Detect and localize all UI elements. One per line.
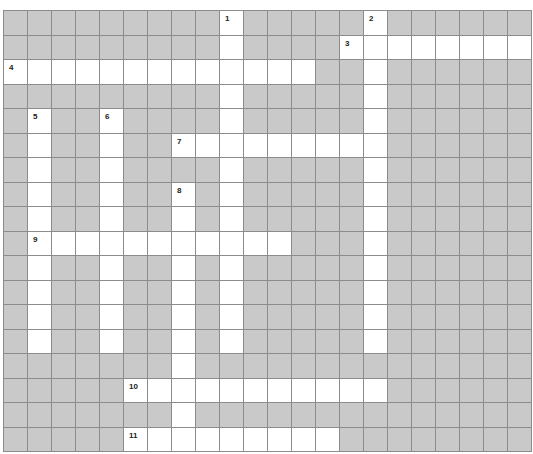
grid-cell-open[interactable] — [412, 36, 436, 61]
grid-cell-open[interactable] — [340, 379, 364, 404]
grid-cell-open[interactable]: 5 — [28, 109, 52, 134]
grid-cell-open[interactable] — [460, 36, 484, 61]
grid-cell-open[interactable]: 3 — [340, 36, 364, 61]
grid-cell-open[interactable] — [28, 305, 52, 330]
grid-cell-open[interactable] — [316, 134, 340, 159]
grid-cell-open[interactable] — [292, 60, 316, 85]
grid-cell-open[interactable] — [148, 60, 172, 85]
grid-cell-open[interactable] — [100, 281, 124, 306]
grid-cell-open[interactable] — [244, 428, 268, 453]
grid-cell-open[interactable] — [364, 305, 388, 330]
grid-cell-open[interactable] — [220, 281, 244, 306]
grid-cell-open[interactable] — [340, 134, 364, 159]
grid-cell-open[interactable] — [220, 330, 244, 355]
grid-cell-open[interactable] — [100, 134, 124, 159]
grid-cell-open[interactable]: 8 — [172, 183, 196, 208]
grid-cell-open[interactable] — [268, 60, 292, 85]
grid-cell-open[interactable] — [364, 109, 388, 134]
grid-cell-open[interactable] — [220, 428, 244, 453]
grid-cell-open[interactable] — [124, 232, 148, 257]
grid-cell-open[interactable] — [292, 134, 316, 159]
grid-cell-open[interactable] — [220, 158, 244, 183]
grid-cell-open[interactable] — [196, 60, 220, 85]
grid-cell-open[interactable] — [100, 330, 124, 355]
grid-cell-open[interactable] — [268, 379, 292, 404]
grid-cell-open[interactable] — [220, 379, 244, 404]
grid-cell-open[interactable]: 7 — [172, 134, 196, 159]
grid-cell-open[interactable] — [52, 60, 76, 85]
grid-cell-open[interactable] — [220, 256, 244, 281]
grid-cell-open[interactable]: 11 — [124, 428, 148, 453]
grid-cell-open[interactable] — [28, 256, 52, 281]
grid-cell-open[interactable] — [172, 330, 196, 355]
grid-cell-open[interactable] — [76, 232, 100, 257]
grid-cell-open[interactable] — [100, 232, 124, 257]
grid-cell-open[interactable] — [100, 183, 124, 208]
grid-cell-open[interactable] — [244, 60, 268, 85]
grid-cell-open[interactable] — [172, 354, 196, 379]
grid-cell-open[interactable] — [172, 428, 196, 453]
grid-cell-open[interactable]: 10 — [124, 379, 148, 404]
grid-cell-open[interactable] — [28, 158, 52, 183]
grid-cell-open[interactable] — [364, 36, 388, 61]
grid-cell-open[interactable] — [364, 256, 388, 281]
grid-cell-open[interactable] — [268, 232, 292, 257]
grid-cell-open[interactable] — [364, 330, 388, 355]
grid-cell-open[interactable] — [436, 36, 460, 61]
grid-cell-open[interactable] — [172, 256, 196, 281]
grid-cell-open[interactable] — [292, 379, 316, 404]
grid-cell-open[interactable] — [76, 60, 100, 85]
grid-cell-open[interactable] — [220, 36, 244, 61]
grid-cell-open[interactable] — [100, 207, 124, 232]
grid-cell-open[interactable] — [220, 183, 244, 208]
grid-cell-open[interactable] — [148, 232, 172, 257]
grid-cell-open[interactable] — [508, 36, 532, 61]
grid-cell-open[interactable] — [364, 379, 388, 404]
grid-cell-open[interactable] — [220, 232, 244, 257]
grid-cell-open[interactable]: 1 — [220, 11, 244, 36]
grid-cell-open[interactable] — [172, 232, 196, 257]
grid-cell-open[interactable] — [364, 134, 388, 159]
grid-cell-open[interactable] — [28, 183, 52, 208]
grid-cell-open[interactable] — [172, 305, 196, 330]
grid-cell-open[interactable] — [172, 379, 196, 404]
grid-cell-open[interactable] — [220, 207, 244, 232]
grid-cell-open[interactable]: 2 — [364, 11, 388, 36]
grid-cell-open[interactable] — [244, 379, 268, 404]
grid-cell-open[interactable]: 6 — [100, 109, 124, 134]
grid-cell-open[interactable] — [100, 60, 124, 85]
grid-cell-open[interactable] — [148, 379, 172, 404]
grid-cell-open[interactable]: 4 — [4, 60, 28, 85]
grid-cell-open[interactable] — [220, 60, 244, 85]
grid-cell-open[interactable] — [388, 36, 412, 61]
grid-cell-open[interactable] — [172, 207, 196, 232]
grid-cell-open[interactable] — [28, 60, 52, 85]
grid-cell-open[interactable] — [364, 158, 388, 183]
grid-cell-open[interactable]: 9 — [28, 232, 52, 257]
grid-cell-open[interactable] — [220, 134, 244, 159]
grid-cell-open[interactable] — [196, 232, 220, 257]
grid-cell-open[interactable] — [244, 232, 268, 257]
grid-cell-open[interactable] — [316, 428, 340, 453]
grid-cell-open[interactable] — [292, 428, 316, 453]
grid-cell-open[interactable] — [124, 60, 148, 85]
grid-cell-open[interactable] — [100, 158, 124, 183]
grid-cell-open[interactable] — [28, 330, 52, 355]
grid-cell-open[interactable] — [364, 232, 388, 257]
grid-cell-open[interactable] — [52, 232, 76, 257]
grid-cell-open[interactable] — [148, 428, 172, 453]
grid-cell-open[interactable] — [244, 134, 268, 159]
grid-cell-open[interactable] — [316, 379, 340, 404]
grid-cell-open[interactable] — [196, 428, 220, 453]
grid-cell-open[interactable] — [28, 207, 52, 232]
grid-cell-open[interactable] — [364, 60, 388, 85]
grid-cell-open[interactable] — [172, 60, 196, 85]
grid-cell-open[interactable] — [364, 207, 388, 232]
grid-cell-open[interactable] — [220, 109, 244, 134]
grid-cell-open[interactable] — [196, 379, 220, 404]
grid-cell-open[interactable] — [364, 183, 388, 208]
grid-cell-open[interactable] — [196, 134, 220, 159]
grid-cell-open[interactable] — [100, 256, 124, 281]
grid-cell-open[interactable] — [268, 134, 292, 159]
grid-cell-open[interactable] — [220, 85, 244, 110]
